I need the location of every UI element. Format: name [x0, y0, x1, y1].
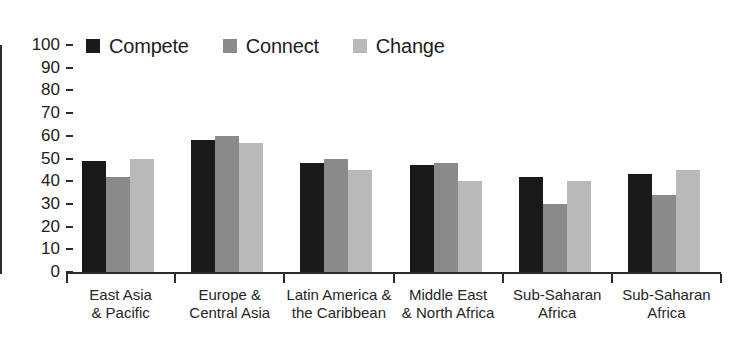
bar-compete[interactable]: [82, 161, 106, 272]
bar-chart: CompeteConnectChange 1009080706050403020…: [0, 0, 733, 347]
bar-group: [300, 45, 372, 272]
y-axis-labels: 1009080706050403020100: [8, 0, 60, 347]
bar-group: [628, 45, 700, 272]
bar-change[interactable]: [458, 181, 482, 272]
y-tick-label: 10: [16, 240, 60, 257]
bar-group: [410, 45, 482, 272]
bar-connect[interactable]: [324, 159, 348, 273]
y-axis-line: [0, 45, 2, 274]
bar-change[interactable]: [567, 181, 591, 272]
y-tick-label: 20: [16, 218, 60, 235]
bar-compete[interactable]: [300, 163, 324, 272]
bar-compete[interactable]: [628, 174, 652, 272]
x-tick-mark: [174, 274, 176, 283]
bar-change[interactable]: [130, 159, 154, 273]
bar-group: [519, 45, 591, 272]
bar-compete[interactable]: [410, 165, 434, 272]
bar-connect[interactable]: [434, 163, 458, 272]
y-tick-label: 0: [16, 263, 60, 280]
x-tick-mark-origin: [66, 274, 68, 283]
x-tick-mark: [720, 274, 722, 283]
bar-group: [191, 45, 263, 272]
bar-change[interactable]: [348, 170, 372, 272]
x-tick-mark: [611, 274, 613, 283]
bar-connect[interactable]: [543, 204, 567, 272]
bar-change[interactable]: [676, 170, 700, 272]
bar-group: [82, 45, 154, 272]
y-tick-label: 60: [16, 127, 60, 144]
y-tick-label: 100: [16, 36, 60, 53]
bar-change[interactable]: [239, 143, 263, 272]
y-tick-label: 40: [16, 172, 60, 189]
bar-connect[interactable]: [652, 195, 676, 272]
bar-compete[interactable]: [191, 140, 215, 272]
x-category-label: Sub-Saharan Africa: [600, 286, 733, 322]
x-tick-mark: [502, 274, 504, 283]
x-tick-mark: [283, 274, 285, 283]
y-tick-label: 70: [16, 104, 60, 121]
x-tick-mark: [393, 274, 395, 283]
y-tick-label: 80: [16, 81, 60, 98]
bar-connect[interactable]: [215, 136, 239, 272]
bar-compete[interactable]: [519, 177, 543, 272]
bar-connect[interactable]: [106, 177, 130, 272]
y-tick-label: 30: [16, 195, 60, 212]
y-tick-label: 90: [16, 59, 60, 76]
y-tick-label: 50: [16, 150, 60, 167]
plot-area: [66, 45, 721, 272]
